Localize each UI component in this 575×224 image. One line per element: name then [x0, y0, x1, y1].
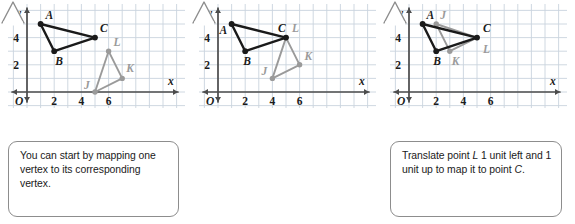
triangle-jkl: JKL [434, 9, 491, 67]
vertex-point-a [38, 21, 44, 27]
vertex-label-c: C [100, 22, 108, 34]
x-tick-label: 4 [79, 95, 85, 107]
vertex-point-l [106, 49, 111, 54]
coordinate-grid-3: 24624OxyJKLABC [382, 0, 573, 112]
vertex-point-j [270, 76, 275, 81]
triangle-jkl: JKL [83, 36, 135, 95]
y-tick-label: 2 [13, 59, 19, 71]
y-tick-label: 4 [13, 32, 19, 44]
vertex-point-b [51, 48, 57, 54]
callout-pointer-3 [382, 0, 408, 24]
panel-step-3: 24624OxyJKLABC Rotate △JKL about point L… [382, 0, 573, 224]
figure-panels: 24624OxyJKLABC You can start by mapping … [0, 0, 575, 224]
x-tick-label: 4 [461, 95, 467, 107]
graph-svg-1: 24624OxyJKLABC [0, 0, 191, 112]
vertex-label-b: B [242, 55, 251, 67]
y-tick-label: 4 [395, 32, 401, 44]
vertex-label-l: L [482, 43, 490, 55]
x-tick-label: 2 [51, 95, 57, 107]
vertex-point-c [474, 35, 480, 41]
vertex-label-l: L [113, 36, 121, 48]
vertex-label-k: K [304, 50, 314, 62]
vertex-point-k [447, 49, 452, 54]
callout-step-1: You can start by mapping one vertex to i… [8, 141, 179, 217]
caption-text: You can start by mapping one vertex to i… [20, 150, 156, 189]
vertex-point-a [420, 21, 426, 27]
x-tick-label: 2 [242, 95, 248, 107]
vertex-point-k [297, 62, 302, 67]
x-tick-label: 6 [106, 95, 112, 107]
x-tick-label: 6 [488, 95, 494, 107]
x-tick-label: 2 [433, 95, 439, 107]
vertex-label-k: K [451, 55, 461, 67]
y-tick-label: 2 [204, 59, 210, 71]
origin-label: O [15, 95, 23, 107]
vertex-label-a: A [426, 9, 435, 21]
vertex-point-a [229, 21, 235, 27]
origin-label: O [206, 95, 214, 107]
graph-svg-2: 24624OxyJKLABC [191, 0, 382, 112]
callout-pointer-1 [0, 0, 26, 24]
vertex-label-a: A [45, 9, 54, 21]
vertex-label-b: B [432, 55, 441, 67]
vertex-label-c: C [278, 22, 286, 34]
x-axis-label: x [167, 75, 174, 87]
panel-step-2: 24624OxyJKLABC Translate point L 1 unit … [191, 0, 382, 224]
graph-svg-3: 24624OxyJKLABC [382, 0, 573, 112]
vertex-label-c: C [483, 22, 491, 34]
y-tick-label: 2 [395, 59, 401, 71]
vertex-point-b [433, 48, 439, 54]
vertex-label-j: J [260, 65, 268, 77]
vertex-label-k: K [125, 62, 135, 74]
y-tick-label: 4 [204, 32, 210, 44]
vertex-label-j: J [83, 79, 91, 91]
panel-step-1: 24624OxyJKLABC You can start by mapping … [0, 0, 191, 224]
vertex-label-l: L [291, 22, 299, 34]
vertex-point-c [283, 35, 289, 41]
triangle-abc: ABC [38, 9, 108, 67]
origin-label: O [397, 95, 405, 107]
callout-pointer-2 [191, 0, 217, 24]
vertex-label-b: B [54, 55, 63, 67]
x-tick-label: 6 [297, 95, 303, 107]
vertex-point-j [92, 89, 97, 94]
x-axis-label: x [358, 75, 365, 87]
vertex-label-a: A [219, 24, 228, 36]
coordinate-grid-1: 24624OxyJKLABC [0, 0, 191, 112]
vertex-point-k [120, 76, 125, 81]
coordinate-grid-2: 24624OxyJKLABC [191, 0, 382, 112]
vertex-point-b [242, 48, 248, 54]
x-axis-label: x [549, 75, 556, 87]
vertex-point-c [92, 35, 98, 41]
x-tick-label: 4 [270, 95, 276, 107]
